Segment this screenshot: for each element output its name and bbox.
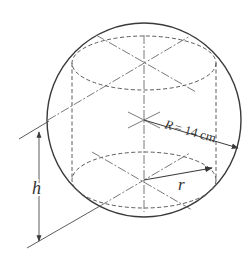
height-label: h <box>32 178 41 198</box>
sphere-cylinder-diagram: R= 14 cm r h <box>0 0 249 259</box>
cylinder-radius-label: r <box>178 175 185 194</box>
height-extension-bottom <box>27 206 100 248</box>
top-diagonal-1 <box>96 35 196 92</box>
sphere-radius-label: R= 14 cm <box>162 116 218 145</box>
height-extension-top <box>19 121 49 139</box>
